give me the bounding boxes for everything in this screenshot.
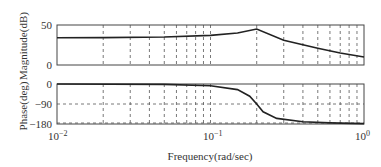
phase-ylabel: Phase(deg) bbox=[17, 81, 30, 130]
phase-ytick-0: 0 bbox=[47, 78, 53, 90]
xtick-0.1: 10−1 bbox=[203, 129, 223, 142]
magnitude-ylabel: Magnitude(dB) bbox=[17, 12, 30, 80]
mag-ytick-0: 0 bbox=[47, 59, 53, 71]
phase-ytick-minus180: −180 bbox=[29, 118, 52, 130]
phase-ytick-minus90: −90 bbox=[35, 98, 53, 110]
bode-plot: 50 0 Magnitude(dB) 0 −90 −180 Phase(deg)… bbox=[0, 0, 381, 167]
magnitude-grid bbox=[103, 25, 357, 65]
xtick-1: 100 bbox=[355, 129, 370, 142]
mag-ytick-50: 50 bbox=[41, 19, 53, 31]
magnitude-panel: 50 0 Magnitude(dB) bbox=[17, 12, 364, 80]
phase-grid bbox=[57, 84, 364, 124]
x-ticks: 10−2 10−1 100 Frequency(rad/sec) bbox=[48, 129, 370, 163]
phase-panel: 0 −90 −180 Phase(deg) bbox=[17, 78, 364, 130]
xtick-0.01: 10−2 bbox=[48, 129, 68, 142]
x-axis-label: Frequency(rad/sec) bbox=[168, 150, 253, 163]
